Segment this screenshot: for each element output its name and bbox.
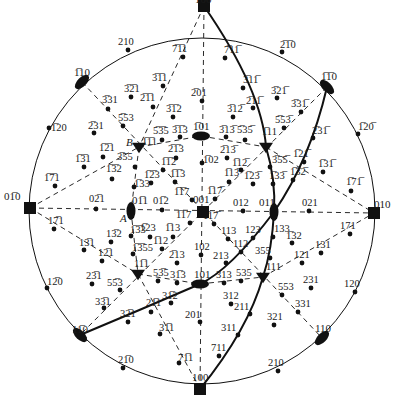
triangle-marker-icon (131, 270, 145, 281)
pole-dot: 201 (185, 309, 202, 324)
dot-marker-icon (106, 107, 111, 112)
pole-dot: 7̅1̅1 (172, 43, 187, 59)
pole-dot: 12̅0 (45, 276, 63, 290)
pole-label: 1̅3̅1 (75, 153, 91, 164)
pole-label: 1̅17 (176, 209, 191, 220)
pole-label: 1̅2̅1 (99, 142, 115, 153)
pole-dot: 31̅2 (162, 290, 178, 305)
dot-marker-icon (356, 132, 361, 137)
pole-label: 12̅1 (98, 247, 114, 258)
pole-dot: 1̅3̅1 (75, 153, 91, 169)
pole-dot: 5̅35̅ (237, 124, 256, 142)
pole-dot: 71̅1 (177, 352, 194, 365)
pole-label: 210 (118, 36, 134, 47)
pole-dot: 1̅3̅55 (131, 242, 153, 256)
dot-marker-icon (243, 138, 248, 143)
pole-label: 3̅1̅3 (172, 124, 188, 135)
pole-label: 11̅0 (72, 323, 89, 335)
dot-marker-icon (171, 115, 176, 120)
pole-label: 31̅3 (170, 269, 186, 280)
dot-marker-icon (241, 209, 246, 214)
pole-label: 1̅13 (165, 222, 180, 233)
pole-label: 3̅31 (102, 94, 118, 105)
dot-marker-icon (126, 48, 131, 53)
point-label-b: B (126, 136, 133, 148)
dot-marker-icon (52, 227, 57, 232)
square-marker-icon (194, 383, 206, 395)
pole-label: 1̅11 (262, 126, 277, 137)
pole-threefold: 111 (256, 261, 281, 283)
dot-marker-icon (92, 131, 97, 136)
pole-label: 33̅1 (95, 296, 111, 307)
pole-label: 3̅1̅1 (152, 72, 167, 83)
four-fold-poles: 1̅0010001̅0010001 (4, 0, 391, 395)
dot-marker-icon (309, 286, 314, 291)
pole-fourfold: 010 (368, 198, 391, 219)
dot-marker-icon (173, 180, 178, 185)
pole-dot: 1̅32 (286, 230, 302, 245)
pole-label: 355 (255, 245, 271, 256)
pole-label: 3̅55̅ (272, 154, 291, 165)
pole-dot: 3̅55̅ (268, 154, 291, 169)
dot-marker-icon (268, 256, 273, 261)
pole-label: 110 (315, 322, 332, 334)
pole-label: 3̅21̅ (271, 85, 290, 96)
dot-marker-icon (121, 124, 126, 129)
pole-dot: 112 (233, 238, 248, 254)
pole-dot: 31̅3 (170, 269, 186, 285)
pole-label: 7̅1̅1 (172, 43, 187, 54)
pole-label: 1̅01 (193, 120, 210, 132)
dot-marker-icon (226, 237, 231, 242)
pole-twofold: 110 (312, 322, 331, 348)
dot-marker-icon (276, 369, 281, 374)
pole-dot: 2̅1̅1 (140, 92, 155, 109)
pole-label: 171 (340, 220, 356, 231)
pole-label: 13̅1 (79, 237, 95, 248)
pole-dot: 120 (344, 278, 360, 294)
pole-label: 1̅23̅ (244, 170, 263, 181)
pole-dot: 13̅1 (79, 237, 95, 252)
pole-dot: 3̅31̅ (291, 98, 310, 114)
pole-label: 1̅1̅3 (170, 168, 185, 179)
pole-label: 55̅3 (107, 277, 123, 288)
dot-marker-icon (217, 354, 222, 359)
pole-label: 535 (236, 267, 252, 278)
pole-label: 201 (185, 309, 201, 320)
pole-dot: 1̅31̅ (318, 158, 337, 174)
dot-marker-icon (229, 302, 234, 307)
dot-marker-icon (275, 96, 280, 101)
pole-label: 31̅1 (159, 322, 174, 333)
triangle-marker-icon (256, 273, 270, 284)
pole-label: 2̅01 (191, 87, 207, 98)
pole-label: 102 (194, 241, 210, 252)
dot-marker-icon (251, 236, 256, 241)
pole-label: 5̅53 (118, 112, 134, 123)
pole-dot: 17̅1 (48, 215, 64, 231)
dot-marker-icon (282, 126, 287, 131)
pole-fourfold: 001 (193, 193, 210, 218)
pole-dot: 3̅1̅3 (172, 124, 188, 139)
pole-label: 100 (192, 371, 209, 383)
pole-label: 213 (213, 250, 229, 261)
square-marker-icon (197, 206, 209, 218)
pole-label: 12̅0 (47, 276, 63, 287)
dot-marker-icon (225, 156, 230, 161)
pole-dot: 5̅53̅ (275, 114, 294, 130)
pole-label: 011 (259, 196, 275, 208)
dot-marker-icon (302, 160, 307, 165)
pole-dot: 3̅12̅ (227, 103, 246, 119)
pole-label: 211 (234, 301, 249, 312)
pole-dot: 21̅0 (118, 354, 134, 370)
dot-marker-icon (129, 95, 134, 100)
pole-twofold: 101 (191, 268, 211, 289)
dot-marker-icon (160, 138, 165, 143)
pole-dot: 311 (221, 322, 240, 337)
pole-dot: 3̅2̅1 (124, 83, 140, 99)
pole-dot: 13̅2 (106, 228, 122, 244)
pole-label: 3̅2̅1 (124, 83, 140, 94)
pole-dot: 1̅3̅3 (129, 224, 146, 238)
pole-twofold: 11̅0 (70, 323, 89, 345)
pole-label: 2̅13̅ (220, 144, 239, 155)
dot-marker-icon (296, 310, 301, 315)
square-marker-icon (24, 202, 36, 214)
